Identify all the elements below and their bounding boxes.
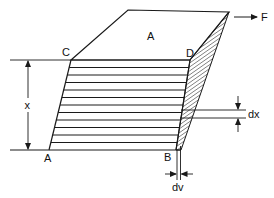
layer-lines bbox=[51, 68, 189, 143]
corner-c-label: C bbox=[62, 46, 70, 58]
top-face-label: A bbox=[147, 30, 155, 42]
right-hatched-face bbox=[176, 12, 229, 150]
corner-d-label: D bbox=[186, 47, 194, 59]
shear-block-diagram: x dx dv F A C D A B bbox=[0, 0, 274, 198]
force-label: F bbox=[261, 11, 268, 23]
diagram-svg: x dx dv F A C D A B bbox=[0, 0, 274, 198]
x-label: x bbox=[25, 99, 31, 111]
corner-b-label: B bbox=[164, 151, 171, 163]
dx-label: dx bbox=[248, 108, 260, 120]
dv-label: dv bbox=[172, 181, 184, 193]
corner-a-label: A bbox=[44, 152, 52, 164]
